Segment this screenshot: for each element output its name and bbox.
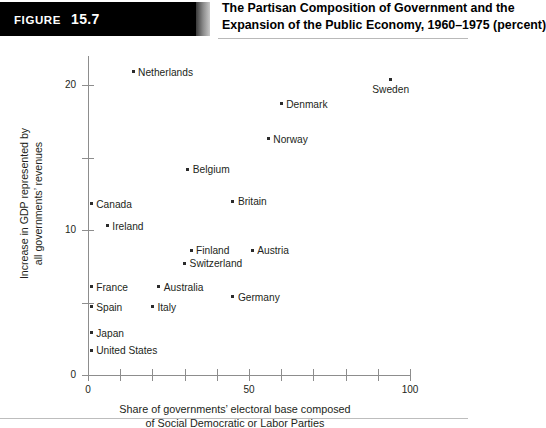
y-axis-title-line-1: Increase in GDP represented by [18,114,32,294]
data-point-label-ireland: Ireland [112,222,143,232]
data-point-label-austria: Austria [257,246,289,256]
x-axis-title: Share of governments’ electoral base com… [60,402,410,428]
x-tick-60 [281,369,282,381]
data-point-spain[interactable] [90,305,93,308]
y-tick-10 [82,230,94,231]
data-point-germany[interactable] [231,295,234,298]
data-point-united-states[interactable] [90,349,93,352]
footer-divider [0,418,468,419]
data-point-netherlands[interactable] [132,70,135,73]
data-point-label-germany: Germany [238,293,280,303]
data-point-label-norway: Norway [273,135,308,145]
figure-tag-number: 15.7 [71,11,99,27]
y-tick-label-20: 20 [52,79,76,90]
figure-title: The Partisan Composition of Government a… [222,0,472,33]
y-axis-title: Increase in GDP represented by all gover… [18,114,45,294]
data-point-japan[interactable] [90,331,93,334]
data-point-label-switzerland: Switzerland [190,259,243,269]
data-point-austria[interactable] [251,249,254,252]
y-tick-20 [82,85,94,86]
figure-header: Figure15.7 The Partisan Composition of G… [0,2,468,36]
data-point-belgium[interactable] [186,168,189,171]
data-point-label-france: France [96,283,128,293]
data-point-sweden[interactable] [389,78,392,81]
data-point-label-finland: Finland [196,246,229,256]
y-tick-15 [82,158,94,159]
data-point-label-denmark: Denmark [286,100,327,110]
y-axis-title-line-2: all governments’ revenues [31,114,45,294]
y-axis-line [88,56,89,375]
x-tick-10 [120,369,121,381]
data-point-label-united-states: United States [96,346,157,356]
header-divider [218,38,468,39]
x-tick-40 [217,369,218,381]
data-point-switzerland[interactable] [183,262,186,265]
x-tick-0 [88,369,89,381]
data-point-italy[interactable] [151,305,154,308]
y-tick-5 [82,303,94,304]
x-tick-90 [378,369,379,381]
x-tick-label-50: 50 [229,384,269,395]
figure-tag-fade [196,2,210,36]
x-tick-100 [410,369,411,381]
data-point-label-netherlands: Netherlands [138,68,193,78]
data-point-label-italy: Italy [157,303,176,313]
data-point-label-spain: Spain [96,303,122,313]
x-tick-label-100: 100 [390,384,430,395]
x-tick-80 [346,369,347,381]
x-tick-20 [152,369,153,381]
x-tick-70 [313,369,314,381]
data-point-norway[interactable] [267,137,270,140]
data-point-britain[interactable] [231,200,234,203]
y-tick-label-10: 10 [52,224,76,235]
data-point-finland[interactable] [190,249,193,252]
x-tick-50 [249,369,250,381]
scatter-plot: 01020 050100 NetherlandsSwedenDenmarkNor… [0,40,468,428]
data-point-ireland[interactable] [106,224,109,227]
figure-title-line-2: Expansion of the Public Economy, 1960–19… [222,17,472,34]
data-point-label-sweden: Sweden [372,85,409,95]
data-point-label-japan: Japan [96,329,124,339]
data-point-canada[interactable] [90,202,93,205]
data-point-label-britain: Britain [238,197,267,207]
data-point-label-belgium: Belgium [193,165,230,175]
data-point-denmark[interactable] [280,102,283,105]
data-point-label-canada: Canada [96,200,132,210]
data-point-australia[interactable] [157,285,160,288]
x-axis-title-line-1: Share of governments’ electoral base com… [60,402,410,416]
figure-title-line-1: The Partisan Composition of Government a… [222,0,472,17]
x-tick-label-0: 0 [68,384,108,395]
x-tick-30 [185,369,186,381]
data-point-label-australia: Australia [164,283,204,293]
data-point-france[interactable] [90,285,93,288]
y-tick-label-0: 0 [52,369,76,380]
figure-tag-word: Figure [14,14,61,26]
figure-tag: Figure15.7 [14,11,100,27]
